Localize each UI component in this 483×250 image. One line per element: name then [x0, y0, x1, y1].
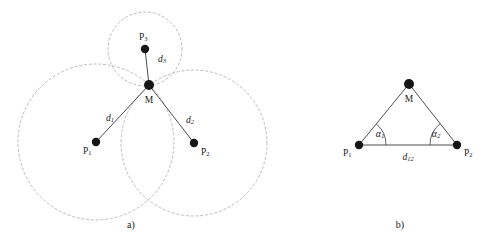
point-label-m: M [145, 96, 153, 106]
anchor-dot-p1-b [355, 141, 363, 149]
point-label-m-b: M [405, 95, 413, 105]
point-label-p1: P1 [83, 147, 92, 157]
anchor-dot-p2-b [453, 141, 461, 149]
distance-segment-d3 [145, 49, 149, 85]
anchor-dot-p1 [92, 138, 100, 146]
panel-a-group [18, 12, 267, 220]
point-label-p1-b: P1 [343, 149, 352, 159]
figure-canvas [0, 0, 483, 250]
distance-label-d3: d3 [158, 55, 166, 65]
distance-label-d2: d2 [186, 116, 194, 126]
distance-segment-d2 [149, 85, 194, 143]
panel-b-group [355, 79, 461, 149]
target-dot-m-b [404, 79, 414, 89]
point-label-p2-b: P2 [464, 149, 473, 159]
figure-container: P1 P2 P3 M d1 d2 d3 P1 P2 M α1 α2 d12 a)… [0, 0, 483, 250]
anchor-dot-p3 [141, 45, 149, 53]
point-label-p3: P3 [139, 33, 148, 43]
anchor-dot-p2 [190, 139, 198, 147]
caption-panel-a: a) [127, 220, 135, 230]
target-dot-m [144, 80, 154, 90]
angle-label-alpha2: α2 [432, 129, 441, 139]
distance-segment-d1 [96, 85, 149, 142]
baseline-label-d12: d12 [402, 153, 413, 163]
angle-label-alpha1: α1 [376, 129, 385, 139]
caption-panel-b: b) [396, 220, 404, 230]
point-label-p2: P2 [201, 148, 210, 158]
distance-label-d1: d1 [106, 114, 114, 124]
